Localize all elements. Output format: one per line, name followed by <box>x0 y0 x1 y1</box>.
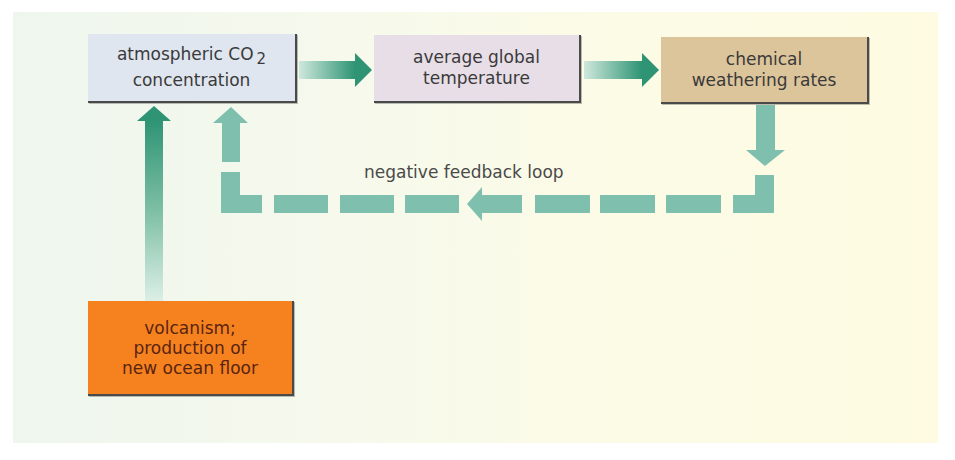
arrow-shaft <box>584 61 642 79</box>
up-arrow-head <box>213 107 248 123</box>
node-co2-line2: concentration <box>133 70 251 91</box>
dash-segment <box>340 195 394 213</box>
arrow-volcanism-to-co2 <box>137 106 171 301</box>
arrow-head <box>355 53 372 87</box>
dash-segment <box>666 195 721 213</box>
arrow-temperature-to-weathering <box>584 53 659 87</box>
node-average-global-temperature: average global temperature <box>374 35 581 103</box>
arrow-weathering-down <box>746 105 785 166</box>
dash-segment <box>535 195 590 213</box>
dash-segment <box>600 195 655 213</box>
arrow-head <box>746 150 785 166</box>
dash-segment <box>274 195 328 213</box>
node-volcanism-line3: new ocean floor <box>122 358 258 378</box>
up-arrow-shaft <box>222 122 240 162</box>
co2-text: atmospheric CO <box>117 44 254 64</box>
node-weathering-line2: weathering rates <box>692 70 837 91</box>
dash-corner-left <box>221 172 262 213</box>
arrow-head <box>642 53 659 87</box>
node-volcanism-line2: production of <box>133 338 246 358</box>
node-chemical-weathering-rates: chemical weathering rates <box>661 37 869 104</box>
dash-corner-right <box>733 175 774 213</box>
dash-arrow-shaft <box>482 195 522 213</box>
arrow-shaft <box>299 61 355 79</box>
node-temperature-line1: average global <box>413 47 540 68</box>
dash-segment <box>405 195 459 213</box>
dash-arrow-head <box>467 187 482 221</box>
arrow-shaft <box>756 105 775 151</box>
co2-subscript: 2 <box>257 50 267 68</box>
node-temperature-line2: temperature <box>423 68 530 89</box>
node-weathering-line1: chemical <box>726 49 802 70</box>
node-co2-line1: atmospheric CO2 <box>117 44 266 70</box>
arrow-co2-to-temperature <box>299 53 372 87</box>
negative-feedback-loop-label: negative feedback loop <box>364 162 564 182</box>
arrow-shaft <box>145 120 163 301</box>
node-volcanism-line1: volcanism; <box>144 318 236 338</box>
arrow-head <box>137 106 171 121</box>
node-volcanism: volcanism; production of new ocean floor <box>88 301 294 396</box>
node-atmospheric-co2: atmospheric CO2 concentration <box>88 34 297 103</box>
